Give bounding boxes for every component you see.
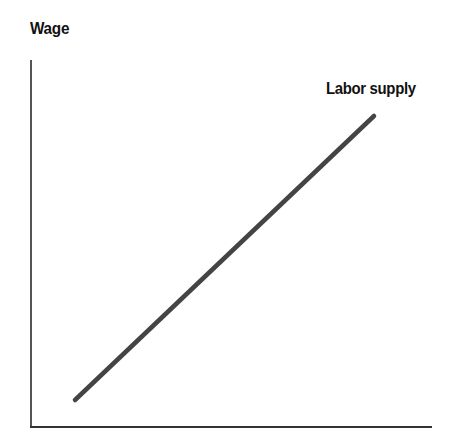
plot-area bbox=[0, 0, 456, 438]
labor-supply-chart: Wage Labor supply bbox=[0, 0, 456, 438]
labor-supply-curve bbox=[75, 116, 374, 400]
